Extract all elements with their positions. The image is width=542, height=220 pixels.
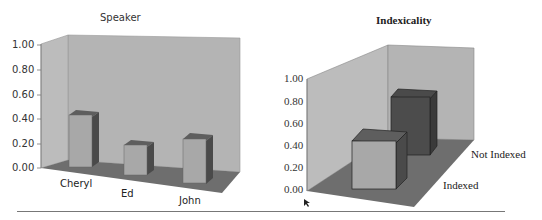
x-label-indexed: Indexed xyxy=(443,179,478,191)
speaker-chart: Speaker xyxy=(0,0,271,210)
y-tick: 1.00 xyxy=(12,39,34,50)
bar-ed xyxy=(124,140,154,175)
y-tick: 0.60 xyxy=(284,117,303,129)
bar-cheryl xyxy=(69,110,99,167)
speaker-chart-plot xyxy=(0,0,271,210)
y-tick: 0.00 xyxy=(12,162,34,173)
x-label-cheryl: Cheryl xyxy=(60,178,92,189)
indexicality-chart: Indexicality 1.00 0.80 0.60 0.40 0.20 0.… xyxy=(271,0,542,210)
bottom-divider xyxy=(17,211,505,212)
y-tick: 0.20 xyxy=(284,161,303,173)
x-label-john: John xyxy=(179,195,201,206)
y-tick: 1.00 xyxy=(284,72,303,84)
y-tick: 0.40 xyxy=(284,139,303,151)
x-label-ed: Ed xyxy=(121,188,134,199)
indexicality-chart-plot xyxy=(271,0,542,210)
mouse-cursor-icon xyxy=(304,199,310,207)
x-label-not-indexed: Not Indexed xyxy=(471,148,526,160)
bar-indexed xyxy=(352,129,407,189)
bar-john xyxy=(183,133,213,184)
y-tick: 0.00 xyxy=(284,183,303,195)
y-tick: 0.40 xyxy=(12,113,34,124)
y-tick: 0.80 xyxy=(12,64,34,75)
y-tick: 0.80 xyxy=(284,95,303,107)
y-tick: 0.20 xyxy=(12,138,34,149)
y-tick: 0.60 xyxy=(12,89,34,100)
